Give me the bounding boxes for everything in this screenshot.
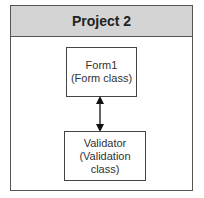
bidirectional-arrow-icon <box>94 96 106 132</box>
validator-name: Validator <box>84 137 127 150</box>
project-title: Project 2 <box>11 6 192 37</box>
validator-node: Validator (Validation class) <box>64 131 146 181</box>
validator-type-line1: (Validation <box>79 150 130 163</box>
form1-type: (Form class) <box>71 72 132 85</box>
form1-name: Form1 <box>86 59 118 72</box>
form1-node: Form1 (Form class) <box>66 47 137 97</box>
validator-type-line2: class) <box>91 163 120 176</box>
